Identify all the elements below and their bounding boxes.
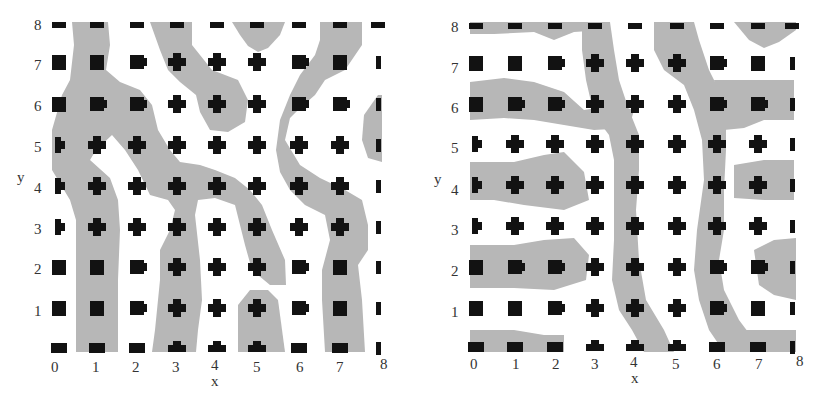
lattice-marker (790, 341, 795, 354)
lattice-marker (142, 304, 147, 312)
lattice-marker (333, 97, 347, 111)
lattice-marker (208, 345, 226, 352)
y-tick-7: 7 (451, 61, 459, 76)
lattice-marker (59, 223, 65, 231)
lattice-marker (295, 218, 303, 236)
lattice-marker (673, 54, 681, 72)
lattice-marker (631, 95, 639, 113)
lattice-marker (713, 135, 721, 153)
lattice-marker (709, 342, 725, 352)
lattice-marker (333, 301, 347, 316)
lattice-marker (345, 100, 350, 108)
lattice-marker (376, 98, 381, 111)
lattice-marker (304, 58, 309, 66)
lattice-marker (173, 218, 181, 236)
lattice-marker (130, 22, 144, 28)
lattice-marker (253, 341, 261, 346)
lattice-marker (291, 343, 307, 353)
lattice-marker (336, 136, 344, 154)
lattice-marker (511, 135, 519, 153)
lattice-marker (90, 301, 104, 316)
x-tick-6: 6 (296, 360, 304, 375)
lattice-marker (710, 97, 724, 111)
lattice-marker (476, 140, 482, 148)
lattice-marker (332, 343, 348, 353)
y-tick-8: 8 (34, 18, 42, 33)
lattice-marker (173, 299, 181, 317)
x-tick-1: 1 (512, 357, 520, 372)
lattice-marker (295, 177, 303, 195)
lattice-marker (591, 54, 599, 72)
x-tick-0: 0 (51, 360, 59, 375)
lattice-marker (551, 217, 559, 235)
lattice-marker (790, 261, 795, 274)
x-tick-7: 7 (336, 360, 344, 375)
lattice-marker (628, 23, 642, 29)
y-tick-6: 6 (34, 99, 42, 114)
lattice-marker (508, 301, 522, 316)
lattice-marker (626, 344, 644, 351)
lattice-marker (548, 301, 562, 315)
lattice-marker (304, 304, 309, 312)
lattice-marker (253, 177, 261, 195)
x-tick-3: 3 (172, 360, 180, 375)
lattice-marker (51, 343, 67, 353)
lattice-marker (130, 260, 144, 274)
x-tick-7: 7 (755, 357, 763, 372)
lattice-marker (253, 218, 261, 236)
x-tick-4: 4 (630, 355, 638, 370)
lattice-marker (591, 176, 599, 194)
lattice-marker (253, 53, 261, 71)
x-tick-2: 2 (552, 357, 560, 372)
lattice-marker (560, 304, 565, 312)
lattice-marker (173, 136, 181, 154)
lattice-marker (213, 299, 221, 317)
lattice-marker (751, 260, 765, 274)
lattice-marker (93, 136, 101, 154)
lattice-marker (713, 176, 721, 194)
lattice-marker (336, 177, 344, 195)
lattice-marker (508, 260, 522, 274)
x-tick-4: 4 (211, 358, 219, 373)
lattice-marker (631, 340, 639, 345)
lattice-marker (722, 100, 727, 108)
lattice-marker (631, 135, 639, 153)
lattice-marker (710, 260, 724, 274)
lattice-marker (508, 23, 522, 29)
lattice-marker (469, 56, 483, 71)
lattice-marker (173, 177, 181, 195)
lattice-marker (790, 57, 795, 70)
lattice-marker (631, 217, 639, 235)
lattice-marker (213, 136, 221, 154)
lattice-marker (173, 258, 181, 276)
lattice-marker (763, 100, 768, 108)
lattice-marker (548, 260, 562, 274)
x-axis-label: x (211, 374, 219, 389)
lattice-marker (102, 100, 107, 108)
lattice-marker (333, 260, 347, 275)
y-tick-5: 5 (34, 140, 42, 155)
lattice-marker (631, 54, 639, 72)
lattice-marker (547, 342, 563, 352)
y-tick-5: 5 (451, 141, 459, 156)
lattice-marker (631, 176, 639, 194)
lattice-marker (673, 299, 681, 317)
lattice-marker (304, 263, 309, 271)
lattice-marker (52, 22, 66, 28)
lattice-marker (673, 217, 681, 235)
lattice-marker (591, 217, 599, 235)
lattice-marker (631, 258, 639, 276)
lattice-marker (511, 217, 519, 235)
x-tick-5: 5 (672, 357, 680, 372)
lattice-marker (52, 97, 66, 112)
lattice-marker (591, 299, 599, 317)
lattice-marker (376, 302, 381, 315)
lattice-marker (129, 343, 145, 353)
lattice-marker (722, 304, 727, 312)
lattice-marker (751, 301, 765, 316)
lattice-marker (142, 263, 147, 271)
y-axis-label: y (17, 170, 25, 185)
lattice-marker (213, 258, 221, 276)
lattice-marker (173, 53, 181, 71)
lattice-marker (292, 22, 306, 28)
